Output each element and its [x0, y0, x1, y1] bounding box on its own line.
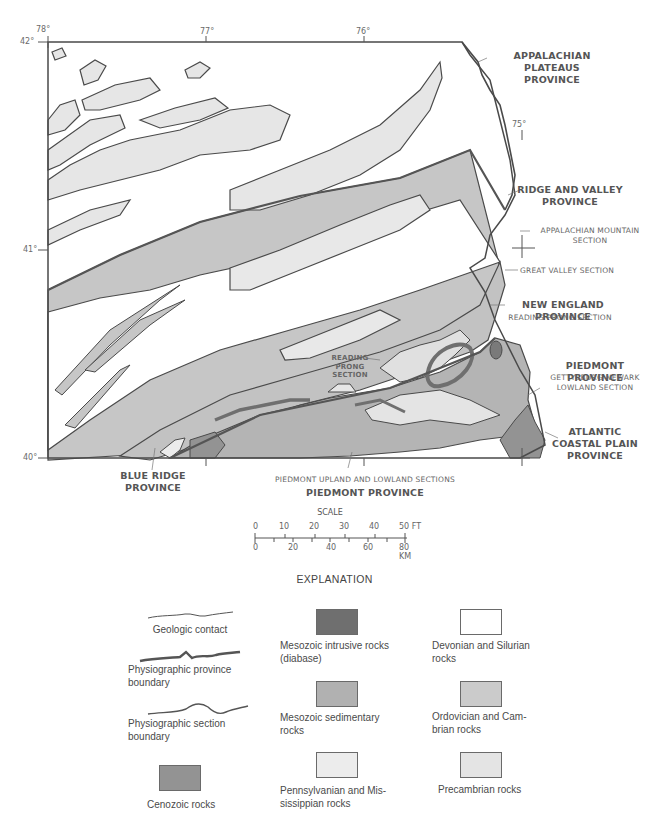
legend-label: Mesozoic intrusive rocks (diabase)	[280, 640, 440, 665]
scale-km-60: 60	[363, 543, 373, 552]
legend-label: Physiographic province boundary	[128, 664, 258, 689]
mesozoic-intrusive-swatch	[316, 609, 358, 635]
label-line: LOWLAND SECTION	[540, 383, 650, 393]
scale-ft-50: 50 FT	[399, 522, 421, 531]
label-great-valley-section: GREAT VALLEY SECTION	[520, 266, 620, 276]
legend-label: Mesozoic sedimentary rocks	[280, 712, 440, 737]
label-line: rocks	[280, 725, 440, 738]
scale-km-80: 80 KM	[399, 543, 422, 561]
legend-label: Cenozoic rocks	[147, 799, 253, 812]
legend-ordovician-cambrian: Ordovician and Cam- brian rocks	[432, 681, 582, 736]
scale-km-0: 0	[253, 543, 258, 552]
label-line: APPALACHIAN MOUNTAIN	[530, 226, 650, 236]
scale-bar: SCALE 0 10 20 30 40 50 FT 0 20 40 60 80 …	[252, 508, 422, 568]
scale-ft-0: 0	[253, 522, 258, 531]
legend-pennsylvanian-mississippian: Pennsylvanian and Mis- sissippian rocks	[280, 752, 440, 810]
label-line: GREAT VALLEY SECTION	[520, 266, 620, 276]
legend-title: EXPLANATION	[0, 573, 669, 585]
label-line: Physiographic province	[128, 664, 258, 677]
geologic-contact-line-icon	[130, 608, 250, 622]
leader-appalachian-plateaus	[478, 58, 487, 62]
label-line: COASTAL PLAIN	[550, 438, 640, 450]
label-line: PIEDMONT UPLAND AND LOWLAND SECTIONS	[265, 475, 465, 485]
label-appalachian-mountain-section: APPALACHIAN MOUNTAIN SECTION	[530, 226, 650, 246]
section-boundary-line-icon	[128, 700, 258, 718]
scale-ft-10: 10	[279, 522, 289, 531]
lon-78-label: 78°	[36, 25, 50, 34]
label-line: Mesozoic sedimentary	[280, 712, 440, 725]
legend-devonian-silurian: Devonian and Silurian rocks	[432, 609, 582, 665]
label-line: Mesozoic intrusive rocks	[280, 640, 440, 653]
lat-42-label: 42°	[20, 37, 34, 46]
label-atlantic-coastal-plain: ATLANTIC COASTAL PLAIN PROVINCE	[550, 426, 640, 462]
scale-km-40: 40	[326, 543, 336, 552]
label-line: SECTION	[325, 371, 375, 380]
scale-title: SCALE	[250, 508, 410, 517]
legend-mesozoic-sedimentary: Mesozoic sedimentary rocks	[280, 681, 440, 737]
scale-ft-40: 40	[369, 522, 379, 531]
label-line: GETTYSBURG-NEWARK	[540, 373, 650, 383]
label-line: READING PRONG SECTION	[500, 313, 620, 323]
legend-label: Precambrian rocks	[438, 784, 588, 797]
label-line: boundary	[128, 731, 258, 744]
legend-mesozoic-intrusive: Mesozoic intrusive rocks (diabase)	[280, 609, 440, 665]
label-line: PRONG	[325, 363, 375, 372]
label-line: Physiographic section	[128, 718, 258, 731]
legend-label: Pennsylvanian and Mis- sissippian rocks	[280, 785, 440, 810]
label-line: RIDGE AND VALLEY	[515, 184, 625, 196]
precambrian-swatch	[460, 752, 502, 778]
label-gettysburg-newark-section: GETTYSBURG-NEWARK LOWLAND SECTION	[540, 373, 650, 393]
pennsylvanian-mississippian-swatch	[316, 752, 358, 778]
label-ridge-and-valley: RIDGE AND VALLEY PROVINCE	[515, 184, 625, 208]
legend-geologic-contact: Geologic contact	[130, 608, 250, 637]
label-line: PROVINCE	[487, 74, 617, 86]
pennsylvanian-island-5	[185, 62, 210, 78]
mesozoic-intrusive-blob	[490, 341, 502, 359]
ordovician-cambrian-swatch	[460, 681, 502, 707]
label-line: PROVINCE	[108, 482, 198, 494]
devonian-silurian-swatch	[460, 609, 502, 635]
pennsylvanian-island-6	[52, 48, 66, 60]
legend-label: Physiographic section boundary	[128, 718, 258, 743]
legend-label: Ordovician and Cam- brian rocks	[432, 711, 582, 736]
legend-province-boundary: Physiographic province boundary	[128, 648, 258, 689]
label-appalachian-plateaus: APPALACHIAN PLATEAUS PROVINCE	[487, 50, 617, 86]
label-piedmont-province-bottom: PIEDMONT PROVINCE	[290, 487, 440, 499]
label-line: APPALACHIAN PLATEAUS	[487, 50, 617, 74]
label-line: (diabase)	[280, 653, 440, 666]
legend-section-boundary: Physiographic section boundary	[128, 700, 258, 743]
label-line: Ordovician and Cam-	[432, 711, 582, 724]
label-reading-prong-section: READING PRONG SECTION	[500, 313, 620, 323]
legend-label: Geologic contact	[130, 624, 250, 637]
cenozoic-swatch	[159, 765, 201, 791]
pennsylvanian-island-2	[82, 78, 160, 110]
label-reading-prong-inset: READING PRONG SECTION	[325, 354, 375, 380]
label-line: brian rocks	[432, 724, 582, 737]
scale-graphic	[252, 518, 422, 558]
label-line: rocks	[432, 653, 582, 666]
label-line: PROVINCE	[515, 196, 625, 208]
label-piedmont-upland-lowland: PIEDMONT UPLAND AND LOWLAND SECTIONS	[265, 475, 465, 485]
label-line: PIEDMONT PROVINCE	[290, 487, 440, 499]
label-line: SECTION	[530, 236, 650, 246]
scale-ft-20: 20	[309, 522, 319, 531]
scale-ft-30: 30	[339, 522, 349, 531]
label-line: Pennsylvanian and Mis-	[280, 785, 440, 798]
label-blue-ridge-province: BLUE RIDGE PROVINCE	[108, 470, 198, 494]
mesozoic-sedimentary-swatch	[316, 681, 358, 707]
pennsylvanian-island-3	[48, 100, 80, 135]
legend-cenozoic: Cenozoic rocks	[143, 765, 253, 812]
label-line: Devonian and Silurian	[432, 640, 582, 653]
lon-77-label: 77°	[200, 27, 214, 36]
province-boundary-line-icon	[128, 648, 258, 664]
lat-40-label: 40°	[23, 453, 37, 462]
pennsylvanian-island-4	[80, 60, 106, 85]
geologic-map: 78° 77° 76° 75° 42° 41° 40° APPALACHIAN …	[0, 0, 669, 520]
label-line: READING	[325, 354, 375, 363]
lat-41-label: 41°	[23, 245, 37, 254]
legend-precambrian: Precambrian rocks	[438, 752, 588, 797]
label-line: ATLANTIC	[550, 426, 640, 438]
label-line: BLUE RIDGE	[108, 470, 198, 482]
lon-76-label: 76°	[356, 27, 370, 36]
label-line: sissippian rocks	[280, 798, 440, 811]
